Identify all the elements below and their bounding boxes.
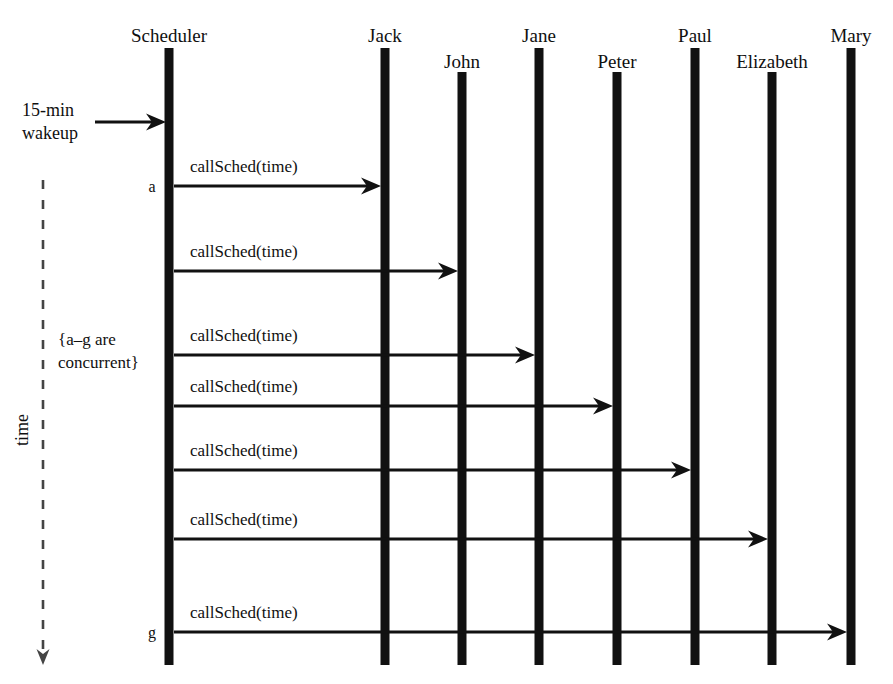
lifeline-bar-peter xyxy=(613,72,622,665)
concurrency-note-line1: {a–g are xyxy=(58,330,116,349)
message-marker-a: a xyxy=(148,178,155,195)
message-b: callSched(time) xyxy=(174,242,458,280)
lifeline-bar-jane xyxy=(535,48,544,665)
lifeline-bar-john xyxy=(458,72,467,665)
external-event-group: 15-min wakeup xyxy=(22,100,166,143)
wakeup-arrow xyxy=(95,114,166,131)
lifeline-bar-elizabeth xyxy=(768,72,777,665)
message-markers-group: ag xyxy=(148,178,156,642)
message-g: callSched(time) xyxy=(174,603,847,641)
message-d: callSched(time) xyxy=(174,377,613,415)
concurrency-note: {a–g are concurrent} xyxy=(58,330,139,372)
lifeline-label-john: John xyxy=(444,51,480,72)
wakeup-label-line2: wakeup xyxy=(22,123,78,143)
lifeline-bar-mary xyxy=(847,48,856,665)
concurrency-note-line2: concurrent} xyxy=(58,353,139,372)
time-axis-label: time xyxy=(12,414,32,446)
lifeline-label-peter: Peter xyxy=(597,51,637,72)
message-label-g: callSched(time) xyxy=(190,603,298,622)
lifeline-label-jane: Jane xyxy=(522,25,556,46)
time-axis: time xyxy=(12,180,50,665)
message-label-a: callSched(time) xyxy=(190,157,298,176)
lifeline-labels-group: SchedulerJackJohnJanePeterPaulElizabethM… xyxy=(131,25,872,72)
message-label-e: callSched(time) xyxy=(190,441,298,460)
messages-group: callSched(time)callSched(time)callSched(… xyxy=(174,157,847,641)
lifeline-bar-scheduler xyxy=(165,48,174,665)
lifeline-label-scheduler: Scheduler xyxy=(131,25,208,46)
lifeline-label-paul: Paul xyxy=(678,25,712,46)
message-marker-g: g xyxy=(148,624,156,642)
message-f: callSched(time) xyxy=(174,510,768,548)
message-c: callSched(time) xyxy=(174,326,535,364)
lifeline-label-elizabeth: Elizabeth xyxy=(736,51,808,72)
message-a: callSched(time) xyxy=(174,157,381,195)
message-label-b: callSched(time) xyxy=(190,242,298,261)
wakeup-label-line1: 15-min xyxy=(22,100,74,120)
time-axis-arrowhead xyxy=(37,649,50,665)
sequence-diagram-svg: SchedulerJackJohnJanePeterPaulElizabethM… xyxy=(0,0,893,684)
lifeline-bar-paul xyxy=(691,48,700,665)
sequence-diagram-canvas: SchedulerJackJohnJanePeterPaulElizabethM… xyxy=(0,0,893,684)
lifeline-label-jack: Jack xyxy=(368,25,402,46)
message-label-f: callSched(time) xyxy=(190,510,298,529)
message-label-d: callSched(time) xyxy=(190,377,298,396)
message-label-c: callSched(time) xyxy=(190,326,298,345)
lifeline-label-mary: Mary xyxy=(830,25,872,46)
